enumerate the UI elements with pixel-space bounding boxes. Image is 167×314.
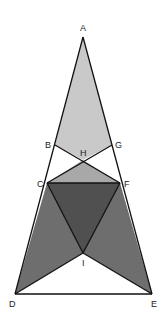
label-h: H	[80, 148, 87, 158]
label-b: B	[45, 140, 51, 150]
geometry-diagram: A B G H C F I D E	[0, 0, 167, 314]
label-d: D	[9, 299, 16, 309]
label-a: A	[80, 23, 86, 33]
label-g: G	[115, 140, 122, 150]
label-e: E	[151, 299, 157, 309]
label-f: F	[124, 179, 130, 189]
region-abhg	[55, 37, 112, 160]
label-c: C	[37, 179, 44, 189]
label-i: I	[82, 258, 85, 268]
